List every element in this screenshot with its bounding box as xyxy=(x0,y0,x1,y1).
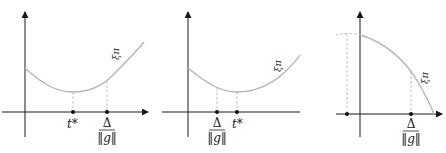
delta-point xyxy=(105,110,109,114)
curve xyxy=(188,55,300,92)
delta-denominator: ‖g‖ xyxy=(207,131,227,145)
curve-label: ξπ xyxy=(272,59,283,72)
panel-2: Δ ‖g‖ t* ξπ xyxy=(162,12,300,145)
delta-numerator: Δ xyxy=(103,116,112,130)
delta-numerator: Δ xyxy=(213,116,222,130)
delta-numerator: Δ xyxy=(407,117,416,131)
dashed-extension xyxy=(336,34,360,36)
panel-3: Δ ‖g‖ ξπ xyxy=(336,12,442,146)
left-point xyxy=(345,112,349,116)
curve xyxy=(25,42,144,92)
delta-point xyxy=(409,112,413,116)
tstar-label: t* xyxy=(232,117,243,131)
tstar-point xyxy=(71,110,75,114)
figure: t* Δ ‖g‖ ξπ Δ ‖g‖ t* ξπ Δ ‖g‖ ξπ xyxy=(0,0,446,153)
panel-1: t* Δ ‖g‖ ξπ xyxy=(2,12,148,145)
delta-point xyxy=(215,110,219,114)
delta-denominator: ‖g‖ xyxy=(401,132,421,146)
curve-label: ξπ xyxy=(419,71,430,84)
delta-denominator: ‖g‖ xyxy=(97,131,117,145)
tstar-label: t* xyxy=(67,117,78,131)
curve-label: ξπ xyxy=(110,47,121,60)
tstar-point xyxy=(235,110,239,114)
